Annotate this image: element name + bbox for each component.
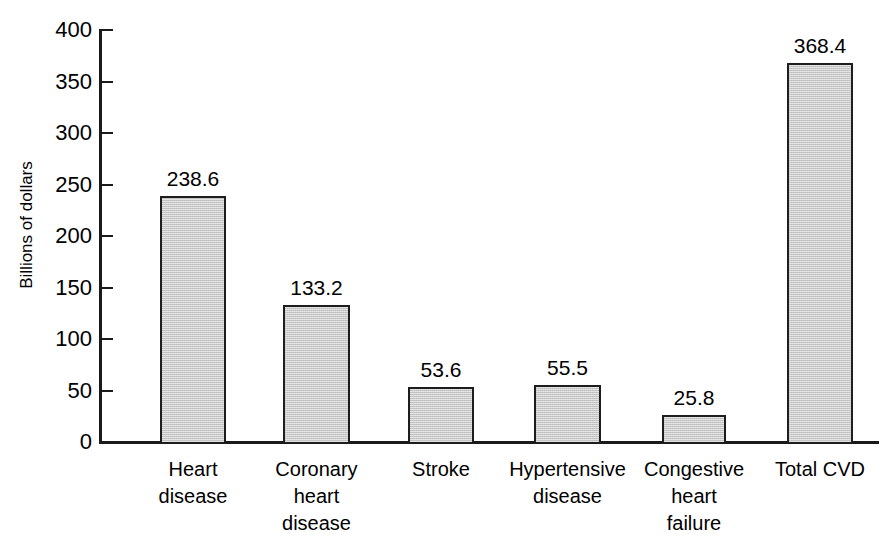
bar-value-label: 368.4 (760, 35, 880, 56)
x-axis-category-label: Hypertensive disease (498, 456, 638, 510)
bar-value-label: 55.5 (508, 357, 628, 378)
bar (662, 415, 726, 444)
x-axis-category-label: Heart disease (123, 456, 263, 510)
bar-value-label: 238.6 (133, 168, 253, 189)
x-axis-category-label: Congestive heart failure (624, 456, 764, 537)
bar (408, 387, 474, 444)
bar (283, 305, 350, 444)
x-axis-category-label: Total CVD (750, 456, 890, 483)
bar (534, 385, 601, 444)
bar-value-label: 25.8 (634, 387, 754, 408)
x-axis-category-label: Stroke (371, 456, 511, 483)
bar-value-label: 53.6 (381, 359, 501, 380)
bar (160, 196, 226, 444)
x-axis-category-label: Coronary heart disease (247, 456, 387, 537)
bar (787, 63, 853, 444)
bar-value-label: 133.2 (257, 277, 377, 298)
bar-chart: Billions of dollars 05010015020025030035… (0, 0, 892, 547)
